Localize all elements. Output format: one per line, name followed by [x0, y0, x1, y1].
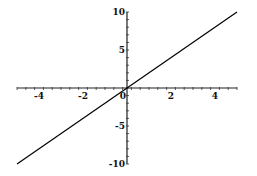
x-tick-label: -4	[34, 91, 44, 101]
x-tick-label: -2	[78, 91, 88, 101]
y-tick-label: 5	[119, 45, 125, 55]
y-tick-label: -5	[115, 121, 125, 131]
x-tick-label: 2	[168, 91, 174, 101]
chart: -4-2024105-5-10	[0, 0, 257, 176]
y-tick-label: -10	[109, 159, 125, 169]
x-tick-label: 4	[212, 91, 218, 101]
y-tick-label: 10	[112, 7, 125, 17]
